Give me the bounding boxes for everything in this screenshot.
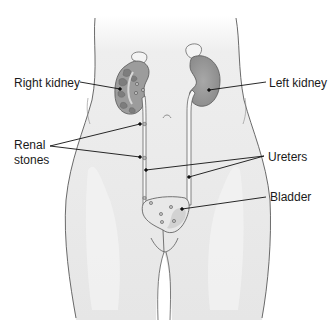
label-right-kidney: Right kidney <box>14 76 80 90</box>
label-renal-stones-line1: Renal <box>14 138 45 152</box>
label-bladder: Bladder <box>270 190 311 204</box>
urinary-system-diagram: Right kidney Left kidney Renal stones Ur… <box>0 0 334 322</box>
label-left-kidney: Left kidney <box>269 76 327 90</box>
label-renal-stones-line2: stones <box>14 153 49 167</box>
label-ureters: Ureters <box>268 150 307 164</box>
